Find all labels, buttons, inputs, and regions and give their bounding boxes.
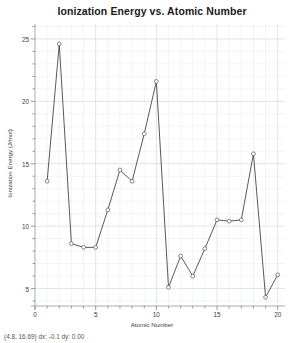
series-markers[interactable]	[45, 42, 279, 299]
series-line	[47, 44, 278, 297]
status-readout: (4.8, 16.69) dx: -0.1 dy: 0.00	[4, 333, 84, 340]
data-point[interactable]	[167, 285, 171, 289]
axis-lines	[31, 24, 285, 310]
data-point[interactable]	[142, 132, 146, 136]
y-tick-label: 5	[13, 285, 29, 292]
data-point[interactable]	[106, 208, 110, 212]
data-point[interactable]	[82, 245, 86, 249]
y-tick-label: 25	[13, 35, 29, 42]
x-tick-label: 20	[274, 311, 281, 318]
data-point[interactable]	[45, 179, 49, 183]
data-point[interactable]	[215, 218, 219, 222]
grid-minor	[35, 24, 285, 306]
data-point[interactable]	[191, 274, 195, 278]
y-tick-label: 15	[13, 160, 29, 167]
y-tick-label: 10	[13, 223, 29, 230]
data-point[interactable]	[70, 242, 74, 246]
data-point[interactable]	[57, 42, 61, 46]
data-point[interactable]	[264, 295, 268, 299]
data-point[interactable]	[94, 245, 98, 249]
x-tick-label: 10	[153, 311, 160, 318]
data-point[interactable]	[179, 254, 183, 258]
data-point[interactable]	[239, 218, 243, 222]
page-title: Ionization Energy vs. Atomic Number	[0, 5, 304, 17]
data-point[interactable]	[203, 247, 207, 251]
axis-major-ticks	[31, 39, 278, 310]
data-point[interactable]	[154, 80, 158, 84]
data-point[interactable]	[227, 219, 231, 223]
x-tick-label: 5	[94, 311, 98, 318]
y-tick-label: 20	[13, 98, 29, 105]
chart-window: Ionization Energy vs. Atomic Number 0510…	[0, 0, 304, 343]
plot-area[interactable]	[35, 24, 285, 306]
data-point[interactable]	[130, 179, 134, 183]
axis-minor-ticks	[33, 26, 266, 308]
x-tick-label: 15	[213, 311, 220, 318]
data-point[interactable]	[252, 152, 256, 156]
data-point[interactable]	[276, 273, 280, 277]
data-point[interactable]	[118, 168, 122, 172]
y-axis-label: Ionization Energy (J/mol)	[6, 109, 13, 219]
x-axis-label: Atomic Number	[0, 321, 304, 328]
x-tick-label: 0	[33, 311, 37, 318]
chart-canvas[interactable]	[35, 24, 285, 306]
